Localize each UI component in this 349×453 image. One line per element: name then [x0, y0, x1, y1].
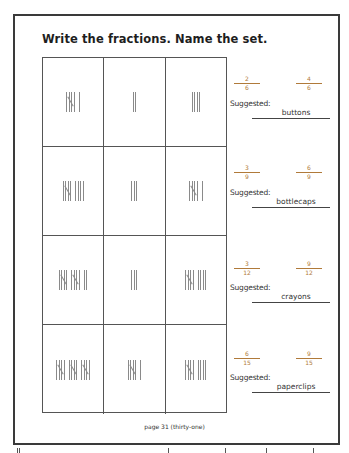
- cutoff-mark: [266, 448, 267, 453]
- tally-group: [202, 181, 203, 201]
- tally-stroke: [203, 270, 204, 290]
- tally-marks: [128, 359, 142, 381]
- tally-group-five: [59, 270, 68, 290]
- cutoff-mark: [313, 448, 314, 453]
- tally-grid: [42, 57, 227, 413]
- fraction-answer[interactable]: 2 6: [234, 75, 260, 91]
- tally-group: [140, 360, 141, 380]
- tally-stroke: [197, 92, 198, 112]
- numerator: 6: [234, 350, 260, 358]
- tally-stroke: [200, 270, 201, 290]
- tally-stroke: [134, 270, 135, 290]
- tally-stroke: [136, 181, 137, 201]
- cutoff-mark: [225, 448, 226, 453]
- tally-cell: [166, 147, 226, 236]
- numerator: 3: [234, 164, 260, 172]
- tally-stroke: [203, 360, 204, 380]
- tally-stroke: [135, 360, 136, 380]
- tally-stroke: [200, 360, 201, 380]
- denominator: 9: [234, 172, 260, 180]
- set-name-answer[interactable]: bottlecaps: [252, 197, 330, 208]
- suggested-label: Suggested:: [230, 99, 270, 108]
- tally-cell: [43, 147, 104, 236]
- denominator: 15: [234, 358, 260, 366]
- tally-group: [192, 92, 201, 112]
- tally-marks: [185, 269, 206, 291]
- cutoff-mark: [168, 448, 169, 453]
- grid-row-2: [43, 147, 226, 236]
- tally-stroke: [192, 92, 193, 112]
- tally-marks: [56, 359, 90, 381]
- tally-stroke: [69, 360, 70, 380]
- tally-stroke: [75, 181, 76, 201]
- tally-stroke: [74, 92, 75, 112]
- denominator: 15: [296, 358, 322, 366]
- tally-stroke: [134, 181, 135, 201]
- tally-cell: [43, 325, 104, 414]
- tally-cell: [104, 147, 165, 236]
- tally-stroke: [193, 270, 194, 290]
- tally-stroke: [59, 270, 60, 290]
- tally-group-five: [128, 360, 137, 380]
- numerator: 6: [296, 164, 322, 172]
- tally-cell: [166, 236, 226, 325]
- fraction-answer[interactable]: 6 15: [234, 350, 260, 366]
- tally-group-five: [63, 181, 72, 201]
- tally-stroke: [131, 270, 132, 290]
- tally-stroke: [135, 92, 136, 112]
- numerator: 2: [234, 75, 260, 83]
- denominator: 9: [296, 172, 322, 180]
- tally-group: [79, 92, 80, 112]
- tally-marks: [59, 269, 88, 291]
- tally-stroke: [76, 360, 77, 380]
- tally-cell: [104, 325, 165, 414]
- tally-stroke: [78, 181, 79, 201]
- tally-marks: [133, 91, 137, 113]
- tally-group-five: [69, 360, 78, 380]
- cutoff-mark: [19, 448, 20, 453]
- tally-stroke: [83, 181, 84, 201]
- tally-stroke: [193, 360, 194, 380]
- tally-group: [198, 270, 207, 290]
- tally-marks: [189, 180, 203, 202]
- grid-row-4: [43, 325, 226, 414]
- suggested-label: Suggested:: [230, 373, 270, 382]
- tally-stroke: [136, 270, 137, 290]
- tally-marks: [192, 91, 201, 113]
- tally-group-five: [81, 360, 90, 380]
- tally-marks: [185, 359, 206, 381]
- suggested-label: Suggested:: [230, 283, 270, 292]
- tally-group: [84, 270, 88, 290]
- tally-marks: [131, 269, 137, 291]
- tally-stroke: [140, 360, 141, 380]
- tally-stroke: [185, 270, 186, 290]
- fraction-answer[interactable]: 4 6: [296, 75, 322, 91]
- answer-block-2: 3 9 6 9 Suggested: bottlecaps: [230, 164, 336, 253]
- tally-cell: [43, 236, 104, 325]
- tally-stroke: [128, 360, 129, 380]
- denominator: 12: [296, 268, 322, 276]
- tally-stroke: [197, 181, 198, 201]
- answer-block-3: 3 12 9 12 Suggested: crayons: [230, 260, 336, 349]
- page-number: page 31 (thirty-one): [0, 423, 349, 430]
- tally-stroke: [64, 360, 65, 380]
- tally-stroke: [189, 181, 190, 201]
- worksheet-title: Write the fractions. Name the set.: [42, 32, 267, 46]
- tally-stroke: [70, 181, 71, 201]
- tally-stroke: [80, 181, 81, 201]
- fraction-answer[interactable]: 9 12: [296, 260, 322, 276]
- tally-marks: [66, 91, 80, 113]
- fraction-answer[interactable]: 3 9: [234, 164, 260, 180]
- tally-cell: [104, 236, 165, 325]
- fraction-answer[interactable]: 9 15: [296, 350, 322, 366]
- set-name-answer[interactable]: buttons: [252, 108, 330, 119]
- set-name-answer[interactable]: paperclips: [252, 382, 330, 393]
- tally-stroke: [81, 360, 82, 380]
- tally-group-five: [189, 181, 198, 201]
- fraction-answer[interactable]: 6 9: [296, 164, 322, 180]
- grid-row-1: [43, 58, 226, 147]
- tally-cell: [166, 325, 226, 414]
- set-name-answer[interactable]: crayons: [252, 292, 330, 303]
- tally-stroke: [56, 360, 57, 380]
- fraction-answer[interactable]: 3 12: [234, 260, 260, 276]
